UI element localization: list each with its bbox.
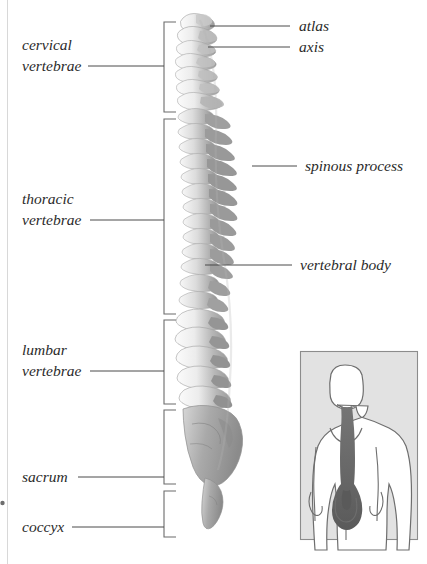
label-axis: axis [299,38,324,55]
label-cervical-line2: vertebrae [22,57,82,74]
label-thoracic-line1: thoracic [22,190,74,207]
lumbar-vertebrae-group [175,309,232,409]
label-cervical-line1: cervical [22,36,72,53]
inset-head [330,365,364,409]
label-thoracic-line2: vertebrae [22,211,82,228]
page-artifact-mark [0,501,4,505]
label-lumbar-line2: vertebrae [22,362,82,379]
label-atlas: atlas [299,17,329,34]
figure-canvas: cervical vertebrae thoracic vertebrae lu… [0,0,427,564]
label-coccyx: coccyx [22,518,64,535]
label-vertebral-body: vertebral body [300,256,391,273]
label-lumbar-line1: lumbar [22,341,68,358]
body-orientation-inset [301,352,418,551]
inset-spine-tip [342,490,352,510]
label-sacrum: sacrum [22,468,68,485]
label-spinous-process: spinous process [305,157,403,174]
